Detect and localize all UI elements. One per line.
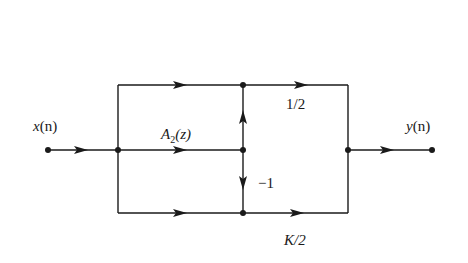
allpass-label: A2(z) (160, 126, 191, 145)
gain-bottom-label: K/2 (283, 232, 306, 248)
node-top-mid (240, 82, 246, 88)
output-label: y(n) (404, 118, 430, 135)
node-bottom-mid (240, 210, 246, 216)
node-input (45, 147, 51, 153)
gain-neg-label: −1 (258, 175, 274, 191)
gain-top-label: 1/2 (286, 96, 305, 112)
node-split (115, 147, 121, 153)
diagram-svg: x(n) A2(z) 1/2 y(n) −1 K/2 (0, 0, 468, 263)
node-mid (240, 147, 246, 153)
input-label: x(n) (32, 118, 57, 135)
node-output (429, 147, 435, 153)
node-sum (345, 147, 351, 153)
signal-flow-diagram: x(n) A2(z) 1/2 y(n) −1 K/2 (0, 0, 468, 263)
